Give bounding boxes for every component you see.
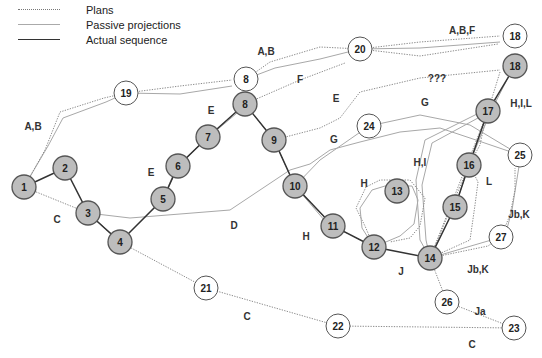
node-13: 13 [385,179,409,203]
edge-label: L [486,176,492,187]
edge-label: Jb,K [508,209,530,220]
legend-label-actual: Actual sequence [86,34,167,46]
edge-label: G [330,134,338,145]
node-label: 23 [508,323,520,334]
node-label: 4 [117,237,123,248]
node-24: 24 [357,114,381,138]
node-label: 25 [514,150,526,161]
node-label: 2 [62,163,68,174]
node-label: 8 [243,74,249,85]
edge-label: J [398,266,404,277]
node-label: 22 [332,321,344,332]
edge-label: C [468,339,475,350]
node-9: 9 [262,128,286,152]
node-label: 18 [509,61,521,72]
edge-label: A,B [257,46,274,57]
passive-projection-line [422,118,478,258]
edge-label: E [333,93,340,104]
node-7: 7 [196,125,220,149]
edge-label: C [53,214,60,225]
edge-label: A,B [24,121,41,132]
legend-item-plans: Plans [18,2,181,17]
edge-label: H,I,L [510,98,532,109]
node-25: 25 [508,143,532,167]
node-11: 11 [321,214,345,238]
node-label: 16 [463,160,475,171]
node-label: 15 [449,202,461,213]
actual-sequence-path [24,66,515,258]
node-6: 6 [166,154,190,178]
node-26: 26 [435,290,459,314]
node-20: 20 [348,37,372,61]
edge-label: C [243,311,250,322]
node-label: 5 [160,194,166,205]
node-10: 10 [283,174,307,198]
legend: Plans Passive projections Actual sequenc… [18,2,181,47]
node-label: 26 [441,297,453,308]
node-19: 19 [114,81,138,105]
actual-sequence-line [24,66,515,258]
node-label: 9 [271,135,277,146]
node-label: 12 [368,242,380,253]
edge-label: ??? [428,73,446,84]
passive-projection-line [455,70,512,207]
edge-label: D [230,220,237,231]
node-8: 8 [233,92,257,116]
plan-line [360,44,498,56]
plan-line [274,70,500,140]
passive-projection-line [163,108,243,199]
plans-line-swatch [18,9,60,10]
node-label: 11 [328,221,339,232]
edge-label: E [148,167,155,178]
actual-line-swatch [18,39,60,40]
node-label: 17 [482,106,494,117]
node-4: 4 [108,230,132,254]
node-22: 22 [326,314,350,338]
edge-label: G [421,97,429,108]
node-label: 3 [85,208,91,219]
node-27: 27 [489,225,513,249]
node-label: 20 [354,44,366,55]
node-label: 19 [120,88,132,99]
plan-line [126,80,232,93]
node-21: 21 [194,276,218,300]
node-17: 17 [476,99,500,123]
legend-item-passive: Passive projections [18,17,181,32]
sequence-diagram: 1234567889101112131415161718181920212223… [0,0,542,358]
node-23: 23 [502,316,526,340]
node-14: 14 [418,246,442,270]
edge-label: H,I [414,157,427,168]
legend-label-passive: Passive projections [86,19,181,31]
passive-projection-line [369,115,520,155]
node-label: 18 [509,31,521,42]
node-12: 12 [362,235,386,259]
node-label: 6 [175,161,181,172]
edge-label: H [360,178,367,189]
node-label: 8 [242,99,248,110]
node-label: 13 [391,186,403,197]
node-label: 1 [21,182,27,193]
node-18p: 18 [503,24,527,48]
edge-label: A,B,F [449,25,475,36]
node-1: 1 [12,175,36,199]
passive-line-swatch [18,24,60,25]
passive-projection-line [126,86,232,94]
node-3: 3 [76,201,100,225]
node-label: 7 [205,132,211,143]
edge-label: Jb,K [467,264,489,275]
node-16: 16 [457,153,481,177]
node-18: 18 [503,54,527,78]
node-8p: 8 [234,67,258,91]
node-5: 5 [151,187,175,211]
legend-item-actual: Actual sequence [18,32,181,47]
edge-label: H [302,231,309,242]
node-2: 2 [53,156,77,180]
node-label: 24 [363,121,375,132]
legend-label-plans: Plans [86,4,114,16]
edge-label: E [208,105,215,116]
edge-label: Ja [474,306,486,317]
node-15: 15 [443,195,467,219]
edge-label: F [297,74,303,85]
node-label: 27 [495,232,507,243]
node-label: 21 [200,283,212,294]
